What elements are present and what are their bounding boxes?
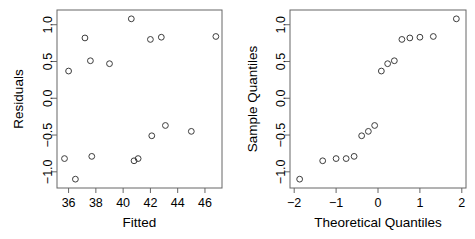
x-tick-label: 2 xyxy=(458,196,465,210)
data-point xyxy=(73,176,79,182)
data-point xyxy=(359,133,365,139)
x-tick-label: 40 xyxy=(116,196,130,210)
data-point xyxy=(399,37,405,43)
x-tick-label: 46 xyxy=(198,196,212,210)
data-point xyxy=(62,156,68,162)
y-axis-title: Residuals xyxy=(11,69,26,129)
y-tick-label: 0.5 xyxy=(41,53,55,70)
y-tick-label: 0.0 xyxy=(41,90,55,107)
plot-box xyxy=(290,10,466,188)
x-tick-label: −2 xyxy=(287,196,301,210)
data-point xyxy=(149,133,155,139)
data-point xyxy=(372,123,378,129)
data-point xyxy=(148,37,154,43)
x-axis-title: Theoretical Quantiles xyxy=(314,215,442,230)
data-point xyxy=(163,123,169,129)
data-point xyxy=(391,58,397,64)
y-tick-label: −1.0 xyxy=(41,159,55,184)
data-point xyxy=(89,153,95,159)
data-point xyxy=(407,35,413,41)
x-tick-label: 1 xyxy=(416,196,423,210)
x-tick-label: 0 xyxy=(375,196,382,210)
data-point xyxy=(158,34,164,40)
x-tick-label: −1 xyxy=(329,196,343,210)
y-tick-label: 1.0 xyxy=(274,16,288,33)
x-tick-label: 42 xyxy=(143,196,157,210)
y-tick-label: 0.5 xyxy=(274,53,288,70)
data-point xyxy=(107,61,113,67)
residuals-vs-fitted-panel: 363840424446−1.0−0.50.00.51.0FittedResid… xyxy=(0,0,238,239)
y-tick-label: 1.0 xyxy=(41,16,55,33)
data-point xyxy=(343,156,349,162)
x-tick-label: 44 xyxy=(171,196,185,210)
data-point xyxy=(385,61,391,67)
data-point xyxy=(378,68,384,74)
data-point xyxy=(297,176,303,182)
data-point xyxy=(333,156,339,162)
y-tick-label: −0.5 xyxy=(274,123,288,148)
data-point xyxy=(82,35,88,41)
data-point xyxy=(128,16,134,22)
normal-qq-panel: −2−1012−1.0−0.50.00.51.0Theoretical Quan… xyxy=(238,0,475,239)
y-tick-label: −0.5 xyxy=(41,123,55,148)
data-point xyxy=(417,34,423,40)
figure-canvas: 363840424446−1.0−0.50.00.51.0FittedResid… xyxy=(0,0,475,239)
data-point xyxy=(88,58,94,64)
normal-qq-plot: −2−1012−1.0−0.50.00.51.0Theoretical Quan… xyxy=(238,0,475,239)
data-point xyxy=(188,128,194,134)
data-point xyxy=(453,16,459,22)
x-axis-title: Fitted xyxy=(123,215,157,230)
x-tick-label: 36 xyxy=(62,196,76,210)
data-point xyxy=(320,158,326,164)
x-tick-label: 38 xyxy=(89,196,103,210)
data-point xyxy=(430,34,436,40)
data-point xyxy=(213,34,219,40)
data-point xyxy=(351,153,357,159)
y-tick-label: −1.0 xyxy=(274,159,288,184)
data-point xyxy=(66,68,72,74)
y-axis-title: Sample Quantiles xyxy=(245,45,260,152)
y-tick-label: 0.0 xyxy=(274,90,288,107)
residuals-vs-fitted-plot: 363840424446−1.0−0.50.00.51.0FittedResid… xyxy=(0,0,238,239)
data-point xyxy=(365,128,371,134)
